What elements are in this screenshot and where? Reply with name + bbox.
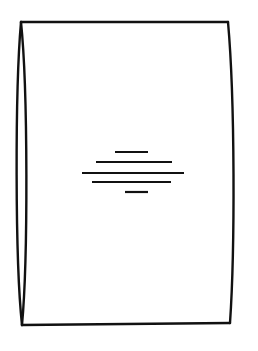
bottom-edge bbox=[22, 323, 230, 325]
right-edge bbox=[228, 22, 234, 323]
left-ellipse-inner-edge bbox=[21, 22, 26, 325]
center-text-lines bbox=[82, 152, 184, 192]
left-ellipse-outer-edge bbox=[17, 22, 22, 325]
cylinder-figure bbox=[0, 0, 258, 351]
